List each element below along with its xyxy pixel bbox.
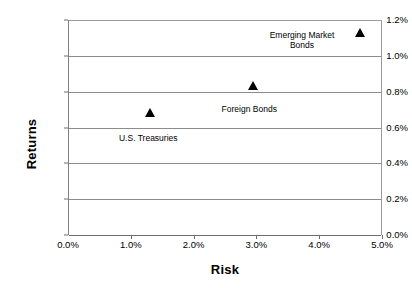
x-tick-label: 2.0% xyxy=(164,239,224,250)
x-tick-mark xyxy=(256,235,257,239)
data-point-label: Foreign Bonds xyxy=(207,104,291,114)
data-point-label: Emerging Market Bonds xyxy=(255,30,349,50)
gridline-y xyxy=(69,163,381,164)
y-tick-label: 1.0% xyxy=(346,51,408,61)
y-tick-label: 0.2% xyxy=(346,194,408,204)
x-axis-title: Risk xyxy=(68,262,382,277)
x-tick-label: 4.0% xyxy=(289,239,349,250)
x-tick-mark xyxy=(382,235,383,239)
x-tick-mark xyxy=(194,235,195,239)
y-tick-label: 0.8% xyxy=(346,87,408,97)
gridline-y xyxy=(69,235,381,236)
y-tick-mark xyxy=(64,235,68,236)
y-axis-title: Returns xyxy=(24,119,39,170)
y-tick-mark xyxy=(64,91,68,92)
x-tick-label: 5.0% xyxy=(352,239,412,250)
y-tick-label: 1.2% xyxy=(346,15,408,25)
y-tick-mark xyxy=(64,55,68,56)
data-point-marker[interactable] xyxy=(355,28,365,37)
x-tick-mark xyxy=(131,235,132,239)
data-point-label: U.S. Treasuries xyxy=(106,133,190,143)
y-tick-label: 0.4% xyxy=(346,158,408,168)
x-tick-label: 3.0% xyxy=(226,239,286,250)
x-tick-label: 1.0% xyxy=(101,239,161,250)
plot-area xyxy=(68,20,382,235)
gridline-y xyxy=(69,128,381,129)
data-point-marker[interactable] xyxy=(248,81,258,90)
y-tick-mark xyxy=(64,127,68,128)
data-point-marker[interactable] xyxy=(145,108,155,117)
gridline-y xyxy=(69,20,381,21)
x-tick-mark xyxy=(319,235,320,239)
y-tick-mark xyxy=(64,199,68,200)
gridline-y xyxy=(69,199,381,200)
y-tick-mark xyxy=(64,163,68,164)
gridline-y xyxy=(69,56,381,57)
y-tick-label: 0.6% xyxy=(346,123,408,133)
x-tick-label: 0.0% xyxy=(38,239,98,250)
gridline-y xyxy=(69,92,381,93)
y-tick-mark xyxy=(64,20,68,21)
